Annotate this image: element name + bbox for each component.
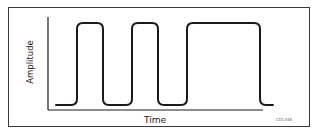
y-axis-label: Amplitude xyxy=(25,40,35,84)
figure-code: CD1346 xyxy=(276,117,292,122)
pulse-waveform-line xyxy=(56,23,273,105)
x-axis-label: Time xyxy=(144,115,166,125)
